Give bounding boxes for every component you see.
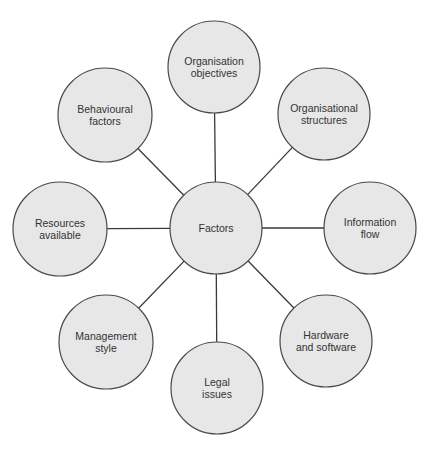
node-label-line: Information [344, 216, 397, 228]
node-label-line: flow [344, 228, 397, 240]
factors-diagram: Factors Organisation objectives Organisa… [0, 0, 433, 452]
node-label-line: Organisational [290, 102, 358, 114]
node-label-line: issues [202, 388, 232, 400]
connector-line-management-style [139, 261, 185, 308]
node-label-line: Factors [198, 222, 233, 234]
node-label-line: Management [75, 330, 136, 342]
node-label-line: objectives [184, 67, 244, 79]
node-label-line: and software [296, 341, 356, 353]
node-label-line: style [75, 342, 136, 354]
node-hardware-and-software: Hardware and software [296, 329, 356, 353]
connector-line-organisation-objectives [215, 113, 216, 182]
node-label-line: factors [77, 115, 132, 127]
node-label-line: available [35, 229, 85, 241]
node-label-line: Hardware [296, 329, 356, 341]
node-resources-available: Resources available [35, 217, 85, 241]
node-organisational-structures: Organisational structures [290, 102, 358, 126]
node-organisation-objectives: Organisation objectives [184, 55, 244, 79]
connector-line-hardware-and-software [248, 261, 294, 308]
node-management-style: Management style [75, 330, 136, 354]
node-information-flow: Information flow [344, 216, 397, 240]
node-label-line: Resources [35, 217, 85, 229]
connector-line-behavioural-factors [138, 149, 184, 196]
connector-line-organisational-structures [248, 147, 293, 194]
node-behavioural-factors: Behavioural factors [77, 103, 132, 127]
node-label-line: Organisation [184, 55, 244, 67]
node-label-line: Legal [202, 376, 232, 388]
node-legal-issues: Legal issues [202, 376, 232, 400]
node-factors: Factors [198, 222, 233, 234]
node-label-line: Behavioural [77, 103, 132, 115]
node-label-line: structures [290, 114, 358, 126]
